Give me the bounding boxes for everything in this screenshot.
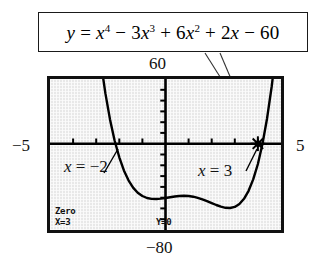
figure-root: y = x4 − 3x3 + 6x2 + 2x − 60 60 −80 −5 5 [0, 0, 324, 268]
axis-label-right: 5 [296, 136, 305, 156]
equation-callout-box: y = x4 − 3x3 + 6x2 + 2x − 60 [38, 12, 308, 52]
plot-area [50, 79, 281, 230]
readout-y-value: Y=0 [156, 217, 171, 227]
readout-mode-label: Zero [55, 206, 75, 216]
leader-line-right-root [246, 149, 257, 171]
zero-point-dot [255, 141, 261, 147]
axis-label-top: 60 [149, 54, 166, 74]
axis-label-bottom: −80 [146, 238, 173, 258]
annotation-root-right-var: x [198, 161, 206, 180]
readout-x-value: X=3 [55, 217, 70, 227]
annotation-root-left: x = −2 [64, 157, 108, 177]
annotation-root-right-value: = 3 [210, 161, 232, 180]
annotation-root-left-var: x [64, 157, 72, 176]
equation-text: y = x4 − 3x3 + 6x2 + 2x − 60 [67, 23, 280, 42]
calculator-screen: x = −2 x = 3 Zero X=3 Y=0 [47, 76, 284, 233]
annotation-root-right: x = 3 [198, 161, 232, 181]
annotation-root-left-value: = −2 [76, 157, 108, 176]
axis-label-left: −5 [12, 136, 30, 156]
